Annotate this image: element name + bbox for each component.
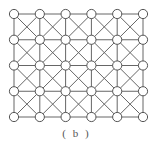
node-circle — [35, 61, 44, 70]
node-circle — [9, 9, 18, 18]
node-circle — [61, 61, 70, 70]
node-circle — [87, 87, 96, 96]
node-circle — [9, 112, 18, 121]
node-circle — [87, 9, 96, 18]
node-circle — [35, 87, 44, 96]
node-circle — [35, 112, 44, 121]
node-circle — [113, 9, 122, 18]
node-circle — [87, 61, 96, 70]
node-circle — [61, 112, 70, 121]
node-circle — [61, 9, 70, 18]
node-circle — [61, 87, 70, 96]
node-circle — [113, 35, 122, 44]
node-circle — [61, 35, 70, 44]
node-circle — [9, 87, 18, 96]
node-circle — [9, 61, 18, 70]
node-circle — [138, 35, 147, 44]
node-circle — [138, 61, 147, 70]
node-circle — [138, 87, 147, 96]
node-circle — [113, 87, 122, 96]
node-circle — [113, 112, 122, 121]
figure-caption: ( b ) — [0, 127, 153, 139]
edges — [14, 14, 143, 117]
node-circle — [87, 35, 96, 44]
node-circle — [9, 35, 18, 44]
node-circle — [35, 9, 44, 18]
node-circle — [138, 9, 147, 18]
node-circle — [87, 112, 96, 121]
grid-mesh-diagram — [0, 0, 153, 127]
node-circle — [35, 35, 44, 44]
node-circle — [113, 61, 122, 70]
node-circle — [138, 112, 147, 121]
